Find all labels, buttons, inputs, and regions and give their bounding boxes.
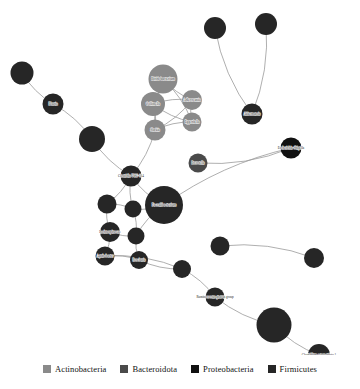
graph-edge — [198, 148, 291, 164]
legend-item[interactable]: Proteobacteria — [191, 364, 254, 374]
graph-edge — [252, 24, 267, 114]
graph-node-label: Prevotella — [192, 161, 206, 165]
legend-label: Proteobacteria — [203, 364, 254, 374]
graph-node-label: Roseburia — [133, 258, 147, 262]
graph-node[interactable] — [255, 13, 277, 35]
legend-label: Actinobacteria — [55, 364, 106, 374]
graph-node-label: Eggerthella — [185, 120, 200, 124]
graph-edge — [215, 28, 252, 114]
node-layer[interactable] — [11, 13, 331, 355]
graph-node[interactable] — [304, 248, 324, 268]
network-graph[interactable]: BlautiaClostridia UCG-014Bifidobacterium… — [0, 0, 360, 355]
legend-swatch-icon — [191, 365, 199, 373]
graph-node-label: Faecalibacterium — [152, 203, 177, 207]
graph-edge — [164, 148, 291, 205]
graph-node-label: Lachnospiraceae — [99, 230, 121, 234]
graph-node[interactable] — [98, 195, 117, 214]
graph-node-label: Clostridium sensu stricto 1 — [302, 353, 337, 355]
legend-label: Firmicutes — [280, 364, 317, 374]
graph-node-label: Clostridia UCG-014 — [118, 174, 144, 178]
graph-node[interactable] — [211, 237, 230, 256]
graph-node-label: Slackia — [150, 128, 160, 132]
legend-item[interactable]: Firmicutes — [268, 364, 317, 374]
graph-edge — [220, 245, 314, 258]
graph-node-label: Ruminococcus gnavus group — [196, 295, 233, 299]
legend: ActinobacteriaBacteroidotaProteobacteria… — [0, 358, 360, 380]
graph-node[interactable] — [125, 201, 142, 218]
legend-swatch-icon — [43, 365, 51, 373]
network-figure: BlautiaClostridia UCG-014Bifidobacterium… — [0, 0, 360, 389]
graph-node-label: Akkermansia — [244, 112, 262, 116]
graph-node-label: Collinsella — [146, 102, 160, 106]
graph-node-label: Escherichia-Shigella — [278, 146, 305, 150]
graph-node[interactable] — [204, 17, 226, 39]
legend-item[interactable]: Actinobacteria — [43, 364, 106, 374]
graph-node-label: Adlercreutzia — [183, 98, 201, 102]
graph-node-label: Agathobacter — [96, 254, 114, 258]
graph-node[interactable] — [128, 228, 145, 245]
graph-node[interactable] — [11, 62, 34, 85]
legend-label: Bacteroidota — [132, 364, 177, 374]
legend-swatch-icon — [120, 365, 128, 373]
graph-node-label: Bifidobacterium — [151, 77, 175, 81]
graph-node[interactable] — [257, 308, 292, 343]
graph-node[interactable] — [173, 260, 191, 278]
legend-item[interactable]: Bacteroidota — [120, 364, 177, 374]
legend-swatch-icon — [268, 365, 276, 373]
graph-node[interactable] — [79, 126, 105, 152]
graph-node-label: Blautia — [48, 102, 58, 106]
